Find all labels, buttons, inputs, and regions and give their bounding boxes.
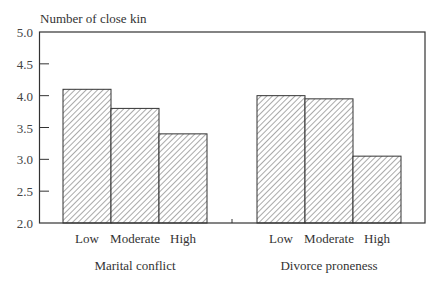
y-tick-label: 4.5	[17, 57, 33, 72]
category-label: Moderate	[110, 231, 160, 246]
group-labels: Marital conflictDivorce proneness	[94, 258, 377, 273]
bar	[111, 108, 159, 223]
category-label: Low	[75, 231, 99, 246]
category-label: High	[364, 231, 391, 246]
y-axis-ticks: 2.02.53.03.54.04.55.0	[17, 25, 49, 231]
y-tick-label: 5.0	[17, 25, 33, 40]
bar	[63, 89, 111, 223]
category-label: Low	[269, 231, 293, 246]
group-label: Divorce proneness	[280, 258, 377, 273]
category-label: High	[170, 231, 197, 246]
y-axis-title: Number of close kin	[40, 11, 147, 26]
y-tick-label: 3.5	[17, 121, 33, 136]
bar	[159, 134, 207, 223]
bars	[63, 89, 401, 223]
group-label: Marital conflict	[94, 258, 176, 273]
y-tick-label: 2.0	[17, 216, 33, 231]
bar	[257, 96, 305, 223]
bar	[353, 156, 401, 223]
category-labels: LowModerateHighLowModerateHigh	[75, 231, 390, 246]
bar	[305, 99, 353, 223]
bar-chart: Number of close kin 2.02.53.03.54.04.55.…	[0, 0, 440, 285]
category-label: Moderate	[304, 231, 354, 246]
y-tick-label: 4.0	[17, 89, 33, 104]
y-tick-label: 2.5	[17, 184, 33, 199]
y-tick-label: 3.0	[17, 152, 33, 167]
